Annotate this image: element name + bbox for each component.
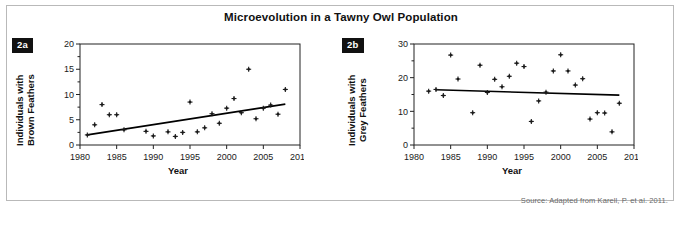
- x-tick-label: 1985: [107, 152, 127, 162]
- y-tick-label: 20: [398, 73, 408, 83]
- y-axis-title-2a: Individuals with Brown Feathers: [14, 58, 36, 162]
- scatter-plot-2a: 051015201980198519901995200020052010: [54, 40, 304, 165]
- y-tick-label: 15: [64, 64, 74, 74]
- y-axis-title-2b: Individuals with Grey Feathers: [346, 60, 368, 160]
- x-tick-label: 2005: [253, 152, 273, 162]
- x-tick-label: 1995: [514, 152, 534, 162]
- x-tick-label: 1990: [477, 152, 497, 162]
- x-tick-label: 1980: [70, 152, 90, 162]
- x-tick-label: 1990: [143, 152, 163, 162]
- panel-2b: 2b Individuals with Grey Feathers 010203…: [340, 34, 670, 189]
- x-axis-title-2a: Year: [54, 165, 302, 176]
- y-axis-title-2b-line2: Grey Feathers: [357, 78, 368, 142]
- panel-badge-2b: 2b: [342, 38, 364, 53]
- plot-area-2a: 051015201980198519901995200020052010: [54, 40, 304, 165]
- y-tick-label: 0: [403, 140, 408, 150]
- y-tick-label: 5: [69, 115, 74, 125]
- source-note: Source: Adapted from Karell, P. et al. 2…: [521, 196, 668, 205]
- x-tick-label: 1995: [180, 152, 200, 162]
- x-tick-label: 2000: [551, 152, 571, 162]
- x-tick-label: 2000: [217, 152, 237, 162]
- x-tick-label: 1985: [441, 152, 461, 162]
- plot-area-2b: 01020301980198519901995200020052010: [388, 40, 638, 165]
- y-tick-label: 10: [64, 90, 74, 100]
- figure-root: Microevolution in a Tawny Owl Population…: [0, 0, 682, 230]
- panel-badge-2a: 2a: [12, 38, 33, 53]
- x-tick-label: 2010: [290, 152, 304, 162]
- x-axis-title-2b: Year: [388, 165, 636, 176]
- figure-title: Microevolution in a Tawny Owl Population: [0, 11, 682, 23]
- y-axis-title-2a-line1: Individuals with: [14, 74, 25, 145]
- y-tick-label: 10: [398, 107, 408, 117]
- y-tick-label: 0: [69, 140, 74, 150]
- plot-frame: [80, 44, 300, 145]
- y-tick-label: 30: [398, 40, 408, 49]
- x-tick-label: 2010: [624, 152, 638, 162]
- x-tick-label: 2005: [587, 152, 607, 162]
- x-tick-label: 1980: [404, 152, 424, 162]
- y-axis-title-2b-line1: Individuals with: [346, 74, 357, 145]
- scatter-plot-2b: 01020301980198519901995200020052010: [388, 40, 638, 165]
- y-tick-label: 20: [64, 40, 74, 49]
- panel-2a: 2a Individuals with Brown Feathers 05101…: [10, 34, 335, 189]
- y-axis-title-2a-line2: Brown Feathers: [25, 74, 36, 146]
